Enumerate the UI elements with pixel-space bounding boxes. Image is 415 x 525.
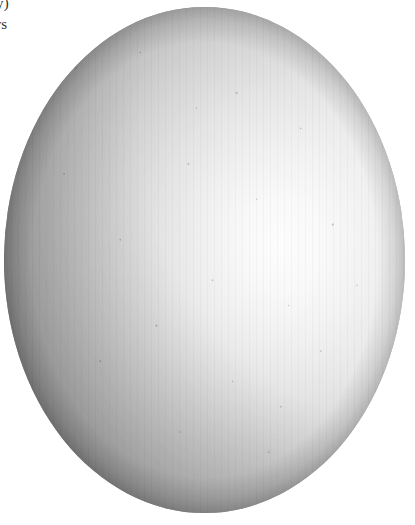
figure-page: y) rs [0,0,415,525]
figure-container [0,0,415,525]
scan-speckle-texture [4,7,405,513]
shaded-ovoid [4,7,405,513]
